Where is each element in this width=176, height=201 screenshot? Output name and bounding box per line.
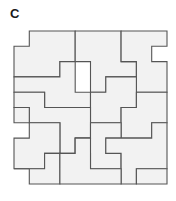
tiling-diagram — [0, 0, 176, 201]
tile-t13 — [136, 169, 167, 184]
figure-panel: C — [0, 0, 176, 201]
tile-group — [14, 31, 167, 184]
